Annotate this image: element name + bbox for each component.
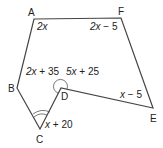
vertex-label-d: D <box>61 91 68 102</box>
angle-label-d: 5x + 25 <box>66 66 100 77</box>
vertex-label-b: B <box>8 83 15 94</box>
angle-label-c: x + 20 <box>44 119 73 130</box>
vertex-label-c: C <box>36 134 43 145</box>
angle-label-e: x − 5 <box>119 89 142 100</box>
polygon-diagram: A F E D C B 2x 2x − 5 2x + 35 5x + 25 x … <box>0 0 163 148</box>
vertex-label-e: E <box>150 113 157 124</box>
vertex-label-a: A <box>28 7 35 18</box>
angle-label-b: 2x + 35 <box>25 66 60 77</box>
angle-label-a: 2x <box>36 21 49 32</box>
angle-label-f: 2x − 5 <box>89 21 118 32</box>
angle-arc-c-inner <box>34 114 47 117</box>
vertex-label-f: F <box>118 6 124 17</box>
